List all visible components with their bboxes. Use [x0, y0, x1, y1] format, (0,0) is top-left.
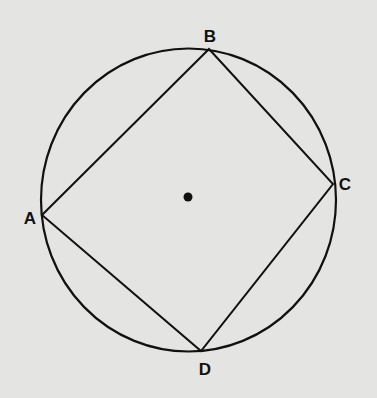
diagram-canvas: A B C D	[0, 0, 377, 398]
vertex-label-c: C	[339, 175, 351, 194]
vertex-label-b: B	[204, 27, 216, 46]
vertex-label-d: D	[199, 360, 211, 379]
vertex-label-a: A	[24, 209, 36, 228]
center-point	[184, 193, 193, 202]
circle-square-figure: A B C D	[0, 0, 377, 398]
